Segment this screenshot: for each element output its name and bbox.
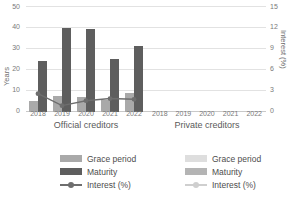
bar-maturity-2020 <box>86 29 95 112</box>
bar-group-private-2019 <box>174 6 193 112</box>
x-tick-official-2021: 2021 <box>101 108 120 120</box>
x-tick-private-2020: 2020 <box>197 108 216 120</box>
legend-official: Grace period Maturity Interest (%) <box>60 152 136 191</box>
bar-maturity-2018 <box>38 61 47 112</box>
bar-maturity-2019 <box>62 28 71 112</box>
legend-label-maturity-official: Maturity <box>87 167 117 177</box>
bar-group-2021 <box>101 6 120 112</box>
x-tick-private-2019: 2019 <box>174 108 193 120</box>
bar-maturity-2021 <box>110 59 119 112</box>
panel-title-private: Private creditors <box>148 120 266 130</box>
legend-item-grace-official[interactable]: Grace period <box>60 152 136 165</box>
legend-private: Grace period Maturity Interest (%) <box>185 152 261 191</box>
legend-item-maturity-private[interactable]: Maturity <box>185 165 261 178</box>
legend-label-grace-private: Grace period <box>212 154 261 164</box>
bar-group-private-2020 <box>197 6 216 112</box>
bar-groups-private <box>148 6 266 112</box>
x-tick-private-2018: 2018 <box>150 108 169 120</box>
panel-private-creditors <box>148 6 266 112</box>
x-tick-official-2022: 2022 <box>125 108 144 120</box>
legend-label-grace-official: Grace period <box>87 154 136 164</box>
y-axis-left-title: Years <box>2 67 11 86</box>
x-axis-labels-private: 2018 2019 2020 2021 2022 <box>148 108 266 120</box>
y-axis-right-tick-12: 12 <box>270 23 292 30</box>
y-axis-right-tick-0: 0 <box>270 107 292 114</box>
legend-swatch-maturity-private-icon <box>185 168 207 175</box>
legend-swatch-maturity-official-icon <box>60 168 82 175</box>
bar-group-2018 <box>29 6 48 112</box>
legend-swatch-grace-private-icon <box>185 155 207 162</box>
y-axis-right-tick-3: 3 <box>270 86 292 93</box>
panel-title-official: Official creditors <box>26 120 146 130</box>
legend-item-interest-official[interactable]: Interest (%) <box>60 178 136 191</box>
y-axis-left-tick-0: 0 <box>0 107 20 114</box>
y-axis-left-tick-50: 50 <box>0 3 20 10</box>
bar-group-private-2021 <box>221 6 240 112</box>
bar-group-2019 <box>53 6 72 112</box>
x-tick-official-2020: 2020 <box>77 108 96 120</box>
legend-swatch-interest-private-icon <box>185 181 207 188</box>
bar-maturity-2022 <box>134 46 143 112</box>
legend-swatch-grace-official-icon <box>60 155 82 162</box>
y-axis-left-tick-10: 10 <box>0 86 20 93</box>
y-axis-right-tick-15: 15 <box>270 3 292 10</box>
bar-groups-official <box>26 6 146 112</box>
bar-group-private-2018 <box>150 6 169 112</box>
legend-label-interest-private: Interest (%) <box>212 180 256 190</box>
bar-group-2020 <box>77 6 96 112</box>
x-axis-labels-official: 2018 2019 2020 2021 2022 <box>26 108 146 120</box>
x-tick-private-2022: 2022 <box>245 108 264 120</box>
legend-label-interest-official: Interest (%) <box>87 180 131 190</box>
legend-item-interest-private[interactable]: Interest (%) <box>185 178 261 191</box>
legend-item-maturity-official[interactable]: Maturity <box>60 165 136 178</box>
panel-official-creditors <box>26 6 146 112</box>
x-tick-private-2021: 2021 <box>221 108 240 120</box>
legend-item-grace-private[interactable]: Grace period <box>185 152 261 165</box>
x-tick-official-2018: 2018 <box>29 108 48 120</box>
y-axis-left-tick-30: 30 <box>0 44 20 51</box>
y-axis-right-title: Interest (%) <box>279 30 288 69</box>
bar-group-2022 <box>125 6 144 112</box>
plot-area <box>26 6 266 112</box>
legend-label-maturity-private: Maturity <box>212 167 242 177</box>
x-tick-official-2019: 2019 <box>53 108 72 120</box>
bar-group-private-2022 <box>245 6 264 112</box>
legend-swatch-interest-official-icon <box>60 181 82 188</box>
y-axis-left-tick-40: 40 <box>0 23 20 30</box>
chart-root: 50 40 30 20 10 0 15 12 9 6 3 0 Years Int… <box>0 0 294 201</box>
